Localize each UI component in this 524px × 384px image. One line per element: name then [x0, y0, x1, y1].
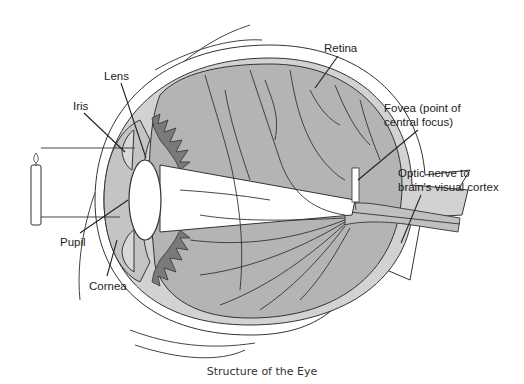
label-lens: Lens	[104, 70, 129, 82]
label-retina: Retina	[324, 42, 358, 54]
label-fovea-line2: central focus)	[384, 116, 453, 128]
label-fovea-line1: Fovea (point of	[384, 102, 462, 114]
figure-caption: Structure of the Eye	[207, 365, 318, 378]
label-cornea: Cornea	[89, 280, 127, 292]
label-iris: Iris	[73, 100, 89, 112]
label-optic-nerve-line2: brain's visual cortex	[398, 181, 499, 193]
eye-structure-diagram: Lens Iris Pupil Cornea Retina Fovea (poi…	[0, 0, 524, 384]
candle-icon	[31, 153, 41, 225]
lens	[129, 160, 161, 240]
label-pupil: Pupil	[60, 236, 86, 248]
label-optic-nerve-line1: Optic nerve to	[398, 167, 470, 179]
